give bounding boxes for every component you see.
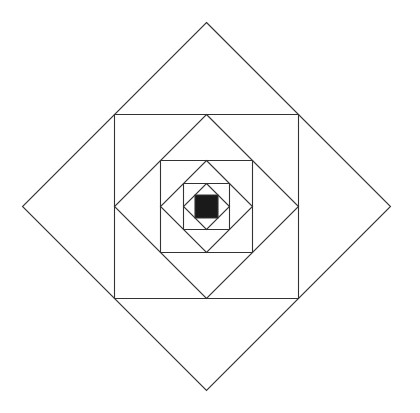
center-square — [195, 195, 218, 218]
nested-squares-diagram — [0, 0, 420, 413]
shapes-group — [23, 23, 391, 391]
diagram-canvas — [0, 0, 420, 413]
